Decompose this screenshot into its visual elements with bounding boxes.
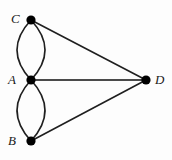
edge-c-a [17,20,31,80]
vertex-label-b: B [8,134,16,147]
vertex-a [26,75,35,84]
edge-a-b [31,80,45,141]
multigraph-diagram: CABD [0,0,172,160]
vertex-b [26,136,35,145]
edge-layer [17,20,146,141]
edge-a-b [17,80,31,141]
edge-b-d [31,80,146,141]
edge-c-a [31,20,45,80]
vertex-label-d: D [155,73,164,86]
vertex-label-c: C [11,12,20,25]
vertex-label-a: A [8,73,16,86]
vertex-d [141,75,150,84]
edge-c-d [31,20,146,80]
graph-canvas [0,0,172,160]
vertex-c [26,15,35,24]
